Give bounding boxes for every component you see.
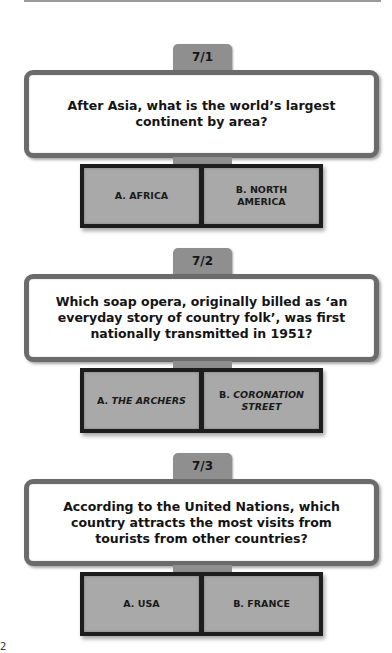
question-number: 7/3	[192, 459, 213, 473]
answer-prefix: A.	[97, 395, 108, 406]
question-box: According to the United Nations, which c…	[24, 479, 379, 566]
answer-option-b[interactable]: B. FRANCE	[204, 576, 319, 632]
answer-prefix: B.	[233, 598, 244, 609]
answer-label: AFRICA	[129, 190, 168, 201]
question-box: Which soap opera, originally billed as ‘…	[24, 274, 379, 362]
answer-label: FRANCE	[247, 598, 290, 609]
answer-option-a[interactable]: A. USA	[84, 576, 199, 632]
top-divider	[24, 0, 381, 2]
question-text: Which soap opera, originally billed as ‘…	[53, 294, 350, 342]
question-box: After Asia, what is the world’s largest …	[24, 70, 379, 158]
answer-prefix: A.	[123, 598, 134, 609]
answer-option-a[interactable]: A. THE ARCHERS	[84, 372, 199, 429]
answer-label: CORONATION STREET	[233, 389, 304, 412]
answer-label: USA	[138, 598, 160, 609]
question-text: After Asia, what is the world’s largest …	[53, 98, 350, 130]
answer-panel: A. AFRICA B. NORTH AMERICA	[80, 164, 323, 228]
answer-option-b[interactable]: B. NORTH AMERICA	[204, 168, 319, 224]
answer-panel: A. USA B. FRANCE	[80, 572, 323, 636]
answer-option-a[interactable]: A. AFRICA	[84, 168, 199, 224]
question-number: 7/1	[192, 50, 213, 64]
answer-label: THE ARCHERS	[111, 395, 185, 406]
answer-panel: A. THE ARCHERS B. CORONATION STREET	[80, 368, 323, 433]
question-text: According to the United Nations, which c…	[53, 499, 350, 547]
answer-prefix: B.	[236, 184, 247, 195]
question-number: 7/2	[192, 254, 213, 268]
answer-prefix: A.	[115, 190, 126, 201]
answer-prefix: B.	[219, 389, 230, 400]
answer-option-b[interactable]: B. CORONATION STREET	[204, 372, 319, 429]
page-number: 2	[0, 641, 6, 652]
